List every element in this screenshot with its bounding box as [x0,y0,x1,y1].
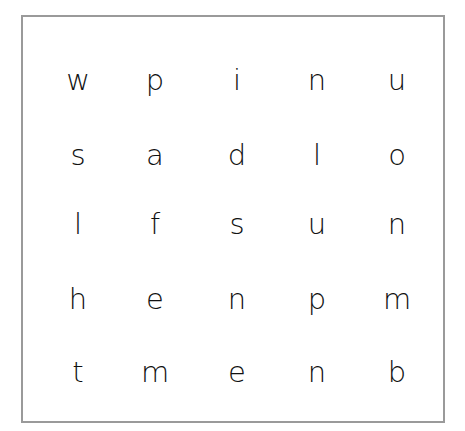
grid-cell-r3-c4[interactable]: u [287,199,347,249]
grid-cell-r5-c1[interactable]: t [48,347,108,397]
grid-cell-r2-c2[interactable]: a [125,130,185,180]
grid-cell-r3-c3[interactable]: s [207,199,267,249]
grid-cell-r1-c4[interactable]: n [287,55,347,105]
grid-cell-r2-c5[interactable]: o [367,130,427,180]
grid-cell-r4-c2[interactable]: e [125,274,185,324]
grid-cell-r2-c4[interactable]: l [287,130,347,180]
grid-cell-r4-c1[interactable]: h [48,274,108,324]
grid-cell-r3-c1[interactable]: l [48,199,108,249]
grid-cell-r2-c1[interactable]: s [48,130,108,180]
grid-cell-r4-c4[interactable]: p [287,274,347,324]
grid-cell-r5-c2[interactable]: m [125,347,185,397]
grid-cell-r1-c3[interactable]: i [207,55,267,105]
grid-cell-r1-c2[interactable]: p [125,55,185,105]
grid-cell-r1-c1[interactable]: w [48,55,108,105]
word-search-board: wpinusadlolfsunhenpmtmenb [21,15,445,423]
grid-cell-r3-c5[interactable]: n [367,199,427,249]
grid-cell-r5-c3[interactable]: e [207,347,267,397]
grid-cell-r2-c3[interactable]: d [207,130,267,180]
grid-cell-r5-c5[interactable]: b [367,347,427,397]
grid-cell-r4-c3[interactable]: n [207,274,267,324]
grid-cell-r3-c2[interactable]: f [125,199,185,249]
grid-cell-r4-c5[interactable]: m [367,274,427,324]
grid-cell-r5-c4[interactable]: n [287,347,347,397]
grid-cell-r1-c5[interactable]: u [367,55,427,105]
